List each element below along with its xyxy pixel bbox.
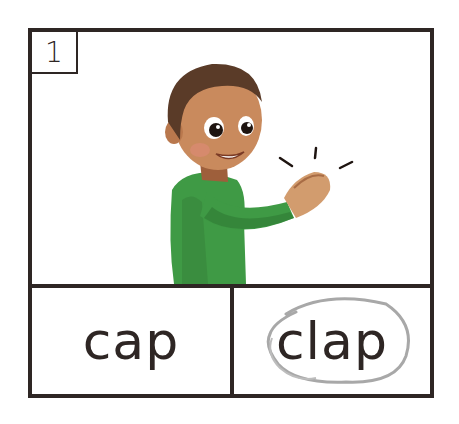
picture-card: 1 cap clap (28, 28, 434, 398)
picture-area (32, 32, 430, 284)
choice-cap[interactable]: cap (32, 288, 230, 394)
choice-label: cap (83, 311, 179, 371)
boy-clapping-illustration (32, 32, 430, 284)
item-number: 1 (45, 36, 63, 69)
item-number-box: 1 (32, 32, 78, 74)
choice-label: clap (276, 311, 388, 371)
choice-clap[interactable]: clap (234, 288, 430, 394)
